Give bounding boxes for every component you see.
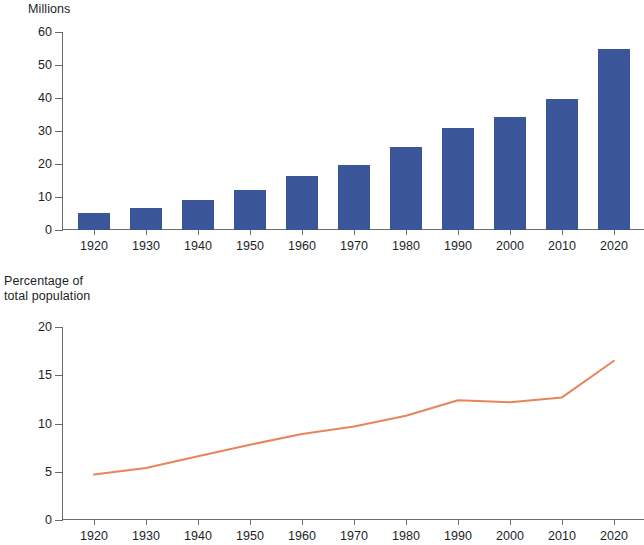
line-chart-y-tick <box>55 520 63 521</box>
line-chart-x-tick-label: 2020 <box>600 530 628 543</box>
bar-chart-x-tick-label: 1930 <box>132 240 160 253</box>
bar-chart-x-tick <box>198 230 199 235</box>
line-chart-plot-area <box>62 327 644 520</box>
bar-chart-panel: Millions 6050403020100 19201930194019501… <box>0 0 644 252</box>
line-chart-x-tick <box>458 520 459 525</box>
bar-chart-x-tick-label: 1920 <box>80 240 108 253</box>
bar-chart-plot-area <box>62 32 644 230</box>
line-chart-x-tick-label: 1960 <box>288 530 316 543</box>
bar-chart-axis-title: Millions <box>28 2 70 17</box>
line-chart-x-tick-label: 2000 <box>496 530 524 543</box>
bar-chart-x-tick <box>562 230 563 235</box>
bar-chart-bar <box>78 213 110 230</box>
bar-chart-bar <box>598 49 630 231</box>
line-chart-x-tick-label: 1950 <box>236 530 264 543</box>
line-chart-x-tick-label: 1970 <box>340 530 368 543</box>
bar-chart-x-tick <box>250 230 251 235</box>
bar-chart-y-tick <box>55 131 63 132</box>
bar-chart-x-tick-label: 1970 <box>340 240 368 253</box>
bar-chart-bar <box>546 99 578 230</box>
line-chart-x-tick-label: 2010 <box>548 530 576 543</box>
bar-chart-y-tick <box>55 164 63 165</box>
line-chart-axis-title: Percentage of total population <box>4 274 90 303</box>
line-chart-polyline <box>94 361 614 475</box>
line-chart-x-tick-label: 1920 <box>80 530 108 543</box>
line-chart-y-tick-label: 0 <box>18 514 52 527</box>
line-chart-x-tick-label: 1980 <box>392 530 420 543</box>
bar-chart-x-tick-label: 2000 <box>496 240 524 253</box>
bar-chart-y-tick-label: 10 <box>18 191 52 204</box>
bar-chart-y-tick <box>55 230 63 231</box>
figure-root: Millions 6050403020100 19201930194019501… <box>0 0 644 545</box>
line-chart-y-tick-label: 15 <box>18 369 52 382</box>
bar-chart-x-tick <box>406 230 407 235</box>
bar-chart-bar <box>234 190 266 230</box>
bar-chart-bar <box>494 117 526 230</box>
line-chart-series-path <box>62 327 644 520</box>
line-chart-x-tick <box>406 520 407 525</box>
bar-chart-bar <box>182 200 214 230</box>
bar-chart-y-tick-label: 20 <box>18 158 52 171</box>
line-chart-x-tick <box>302 520 303 525</box>
bar-chart-x-tick <box>302 230 303 235</box>
bar-chart-x-tick <box>146 230 147 235</box>
bar-chart-x-tick-label: 1950 <box>236 240 264 253</box>
bar-chart-x-tick <box>614 230 615 235</box>
bar-chart-y-tick-label: 60 <box>18 26 52 39</box>
line-chart-y-tick-label: 10 <box>18 417 52 430</box>
bar-chart-bar <box>442 128 474 230</box>
bar-chart-x-tick-label: 1960 <box>288 240 316 253</box>
bar-chart-y-tick <box>55 197 63 198</box>
line-chart-x-tick <box>614 520 615 525</box>
bar-chart-bar <box>130 208 162 230</box>
line-chart-y-tick-label: 5 <box>18 466 52 479</box>
bar-chart-y-tick <box>55 65 63 66</box>
bar-chart-x-tick-label: 2020 <box>600 240 628 253</box>
bar-chart-x-tick <box>94 230 95 235</box>
bar-chart-y-tick-label: 40 <box>18 92 52 105</box>
line-chart-x-tick <box>562 520 563 525</box>
bar-chart-y-tick-label: 0 <box>18 224 52 237</box>
bar-chart-x-tick-label: 1980 <box>392 240 420 253</box>
bar-chart-bar <box>286 176 318 230</box>
bar-chart-x-tick-label: 1990 <box>444 240 472 253</box>
line-chart-x-tick <box>250 520 251 525</box>
line-chart-x-tick <box>510 520 511 525</box>
bar-chart-x-tick <box>510 230 511 235</box>
bar-chart-y-tick-label: 30 <box>18 125 52 138</box>
bar-chart-bar <box>390 147 422 230</box>
line-chart-x-tick <box>198 520 199 525</box>
line-chart-x-tick <box>94 520 95 525</box>
line-chart-x-tick <box>354 520 355 525</box>
line-chart-x-tick-label: 1940 <box>184 530 212 543</box>
line-chart-x-tick <box>146 520 147 525</box>
line-chart-x-tick-label: 1930 <box>132 530 160 543</box>
bar-chart-x-tick <box>458 230 459 235</box>
bar-chart-y-tick <box>55 32 63 33</box>
line-chart-y-tick-label: 20 <box>18 321 52 334</box>
bar-chart-x-tick-label: 1940 <box>184 240 212 253</box>
bar-chart-y-tick <box>55 98 63 99</box>
bar-chart-x-tick-label: 2010 <box>548 240 576 253</box>
bar-chart-x-tick <box>354 230 355 235</box>
bar-chart-y-tick-label: 50 <box>18 59 52 72</box>
line-chart-panel: Percentage of total population 20151050 … <box>0 270 644 545</box>
bar-chart-bar <box>338 165 370 230</box>
line-chart-x-tick-label: 1990 <box>444 530 472 543</box>
